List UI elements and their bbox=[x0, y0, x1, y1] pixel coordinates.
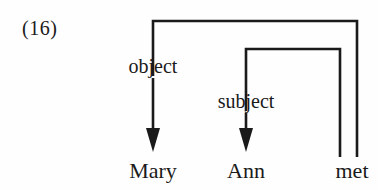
object-arrowhead bbox=[146, 128, 160, 152]
dependency-arcs bbox=[0, 0, 378, 190]
relation-label-subject: subject bbox=[218, 91, 275, 111]
word-met: met bbox=[336, 160, 369, 182]
word-mary: Mary bbox=[129, 160, 177, 182]
relation-label-object: object bbox=[129, 56, 178, 76]
object-connector-path bbox=[153, 21, 357, 157]
object-connector bbox=[146, 21, 357, 157]
word-ann: Ann bbox=[227, 160, 265, 182]
subject-arrowhead bbox=[239, 128, 253, 152]
dependency-diagram-figure: (16) object subject Mary Ann met bbox=[0, 0, 378, 190]
